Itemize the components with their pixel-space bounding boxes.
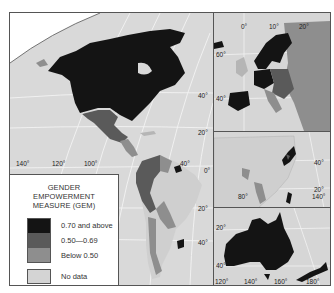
lat-label-20n: 20° xyxy=(198,129,208,136)
swatch-nodata xyxy=(27,269,51,284)
asia-lat-40: 40° xyxy=(314,159,324,166)
inset-europe: 0° 10° 20° 60° 40° xyxy=(213,13,330,131)
legend-item-nodata: No data xyxy=(27,269,87,284)
aus-lon-180: 180° xyxy=(306,278,320,285)
aus-lat-20: 20° xyxy=(216,224,226,231)
lat-label-20s: 20° xyxy=(198,205,208,212)
europe-lon-10: 10° xyxy=(269,23,279,30)
europe-lat-60: 60° xyxy=(216,51,226,58)
legend-title: GENDER EMPOWERMENT MEASURE (GEM) xyxy=(10,183,118,210)
swatch-mid xyxy=(27,233,51,248)
lon-label-40w: 40° xyxy=(180,160,190,167)
lat-label-40n: 40° xyxy=(198,92,208,99)
legend-label: 0.50—0.69 xyxy=(61,236,98,245)
legend-label: Below 0.50 xyxy=(61,251,98,260)
lat-label-0: 0° xyxy=(204,167,211,174)
lon-label-100w: 100° xyxy=(84,160,98,167)
legend-label: No data xyxy=(61,272,87,281)
europe-lon-0: 0° xyxy=(241,23,248,30)
legend-item-low: Below 0.50 xyxy=(27,248,98,263)
legend-title-line: GENDER xyxy=(10,183,118,192)
lon-label-140w: 140° xyxy=(16,160,30,167)
legend-title-line: EMPOWERMENT xyxy=(10,192,118,201)
region-scandinavia xyxy=(254,33,292,69)
region-north-america xyxy=(48,29,185,121)
swatch-low xyxy=(27,248,51,263)
region-australia xyxy=(224,212,294,270)
asia-lon-labels: 80° 140° xyxy=(212,192,329,202)
swatch-high xyxy=(27,218,51,233)
inset-australia: 20° 40° 120° 140° 160° 180° xyxy=(213,207,330,285)
legend-item-high: 0.70 and above xyxy=(27,218,113,233)
lon-label-120w: 120° xyxy=(52,160,66,167)
legend-label: 0.70 and above xyxy=(61,221,113,230)
aus-lon-140: 140° xyxy=(244,278,258,285)
legend-title-line: MEASURE (GEM) xyxy=(10,201,118,210)
legend-item-mid: 0.50—0.69 xyxy=(27,233,98,248)
lat-label-40s: 40° xyxy=(198,239,208,246)
asia-lon-140: 140° xyxy=(312,193,326,200)
legend: GENDER EMPOWERMENT MEASURE (GEM) 0.70 an… xyxy=(9,174,119,286)
aus-lat-40: 40° xyxy=(216,262,226,269)
europe-lon-20: 20° xyxy=(299,23,309,30)
aus-lon-120: 120° xyxy=(215,278,229,285)
europe-lat-40: 40° xyxy=(216,95,226,102)
asia-lon-80: 80° xyxy=(238,193,248,200)
aus-lon-160: 160° xyxy=(274,278,288,285)
